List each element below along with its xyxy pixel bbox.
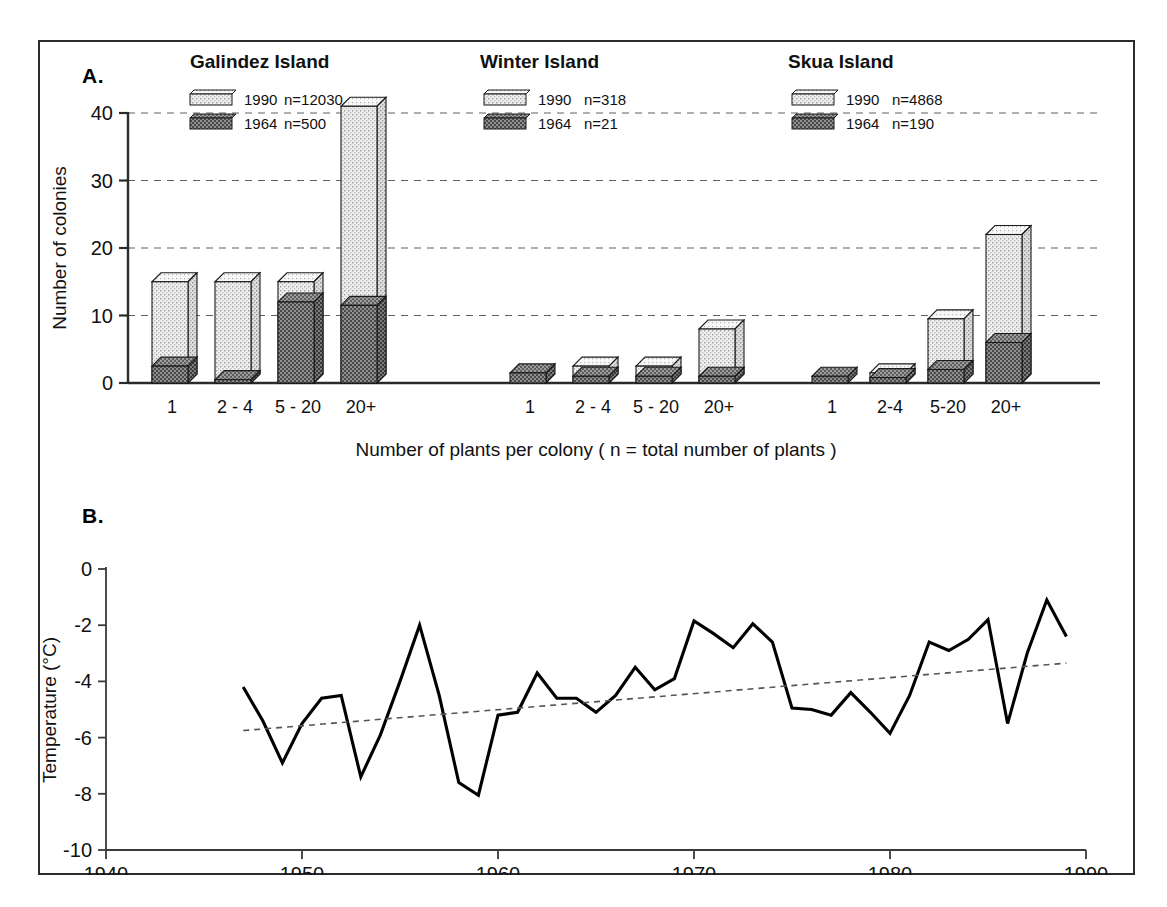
panel-b-ytick-label: -10 [63,839,92,861]
panel-a-ytick-label: 30 [91,170,113,192]
legend-n-label: n=12030 [284,91,343,108]
panel-a-category-label: 2 - 4 [217,397,253,417]
panel-a-category-label: 1 [827,397,837,417]
panel-b-ytick-label: -2 [74,614,92,636]
panel-b-line-chart: 0-2-4-6-8-10194019501960197019801990Temp… [40,472,1133,875]
legend-swatch-1964 [484,114,530,129]
panel-a-category-label: 5 - 20 [633,397,679,417]
bar-1964 [510,364,555,383]
bar-1964 [341,296,386,383]
panel-a-ytick-label: 20 [91,237,113,259]
panel-a-ytick-label: 40 [91,102,113,124]
panel-b-xtick-label: 1940 [84,863,129,875]
legend-swatch-1990 [190,90,236,105]
panel-b-ytick-label: -4 [74,670,92,692]
panel-a-x-axis-title: Number of plants per colony ( n = total … [355,439,836,460]
panel-a-group-title: Skua Island [788,51,894,72]
panel-a-category-label: 20+ [991,397,1022,417]
legend-n-label: n=21 [584,115,618,132]
bar-1964 [986,334,1031,384]
panel-b-xtick-label: 1990 [1064,863,1109,875]
legend-year-label: 1964 [846,115,879,132]
legend-swatch-1964 [792,114,838,129]
bar-1964 [699,367,744,383]
bar-1964 [928,361,973,384]
trend-line [243,663,1066,730]
legend-n-label: n=4868 [892,91,942,108]
panel-a-category-label: 20+ [346,397,377,417]
panel-b-y-axis-title: Temperature (°C) [40,637,60,783]
bar-1964 [636,367,681,383]
bar-1964 [812,367,857,383]
panel-b-ytick-label: 0 [81,558,92,580]
panel-b-xtick-label: 1980 [868,863,913,875]
legend-year-label: 1990 [538,91,571,108]
bar-1964 [573,367,618,383]
panel-a-ytick-label: 10 [91,305,113,327]
legend-year-label: 1964 [538,115,571,132]
panel-b-ytick-label: -6 [74,727,92,749]
bar-1964 [215,371,260,383]
bar-1990 [215,273,260,383]
legend-swatch-1964 [190,114,236,129]
panel-a-category-label: 5 - 20 [275,397,321,417]
panel-a-group-title: Galindez Island [190,51,329,72]
panel-a-group-title: Winter Island [480,51,599,72]
legend-year-label: 1964 [244,115,277,132]
legend-n-label: n=318 [584,91,626,108]
panel-b-xtick-label: 1950 [280,863,325,875]
panel-a-category-label: 1 [167,397,177,417]
legend-year-label: 1990 [244,91,277,108]
panel-a-category-label: 2 - 4 [575,397,611,417]
panel-a-y-axis-title: Number of colonies [49,166,70,330]
panel-a-category-label: 20+ [704,397,735,417]
bar-1964 [278,293,323,383]
legend-n-label: n=500 [284,115,326,132]
panel-b-xtick-label: 1970 [672,863,717,875]
legend-n-label: n=190 [892,115,934,132]
bar-1964 [152,357,197,383]
panel-a-category-label: 2-4 [877,397,903,417]
panel-b-xtick-label: 1960 [476,863,521,875]
panel-a-bar-chart: 010203040Number of coloniesGalindez Isla… [40,42,1133,472]
legend-swatch-1990 [792,90,838,105]
legend-year-label: 1990 [846,91,879,108]
panel-b-ytick-label: -8 [74,783,92,805]
panel-a-category-label: 1 [525,397,535,417]
bar-1964 [870,369,915,383]
figure-frame: A. B. 010203040Number of coloniesGalinde… [38,40,1135,875]
legend-swatch-1990 [484,90,530,105]
panel-a-ytick-label: 0 [102,372,113,394]
panel-a-category-label: 5-20 [930,397,966,417]
